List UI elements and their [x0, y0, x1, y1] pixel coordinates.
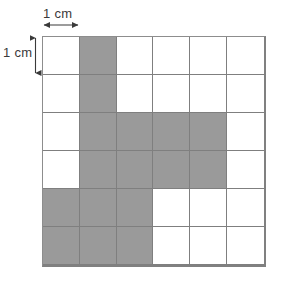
grid-cell-r2-c6	[227, 75, 264, 113]
vertical-dimension-label: 1 cm	[3, 45, 32, 60]
grid-cell-r5-c1	[43, 189, 80, 227]
grid-cell-r1-c2	[80, 37, 117, 75]
grid-cell-r5-c3	[117, 189, 154, 227]
grid-cell-r3-c4	[153, 113, 190, 151]
grid-cell-r2-c5	[190, 75, 227, 113]
grid-cell-r4-c6	[227, 151, 264, 189]
grid-cell-r1-c4	[153, 37, 190, 75]
horizontal-dimension-label: 1 cm	[43, 6, 72, 21]
grid-cell-r3-c6	[227, 113, 264, 151]
grid-cell-r1-c3	[117, 37, 154, 75]
grid-cell-r2-c3	[117, 75, 154, 113]
grid-cell-r3-c1	[43, 113, 80, 151]
grid-cell-r3-c2	[80, 113, 117, 151]
grid-cell-r6-c1	[43, 227, 80, 265]
grid-cell-r5-c6	[227, 189, 264, 227]
grid-cell-r4-c4	[153, 151, 190, 189]
grid-cell-r6-c6	[227, 227, 264, 265]
area-grid-figure: 1 cm 1 cm	[0, 0, 284, 286]
grid-cell-r4-c5	[190, 151, 227, 189]
grid-cell-r1-c5	[190, 37, 227, 75]
grid-cell-r4-c1	[43, 151, 80, 189]
grid-cell-r5-c4	[153, 189, 190, 227]
grid-cell-r6-c5	[190, 227, 227, 265]
grid-cell-r6-c3	[117, 227, 154, 265]
grid-cell-r4-c3	[117, 151, 154, 189]
grid-cell-r6-c4	[153, 227, 190, 265]
grid-cell-r2-c1	[43, 75, 80, 113]
grid-cell-r1-c1	[43, 37, 80, 75]
grid-cell-r6-c2	[80, 227, 117, 265]
grid-cell-r2-c4	[153, 75, 190, 113]
grid-cell-r3-c5	[190, 113, 227, 151]
grid-cell-r5-c2	[80, 189, 117, 227]
grid-cell-r5-c5	[190, 189, 227, 227]
grid-cell-r3-c3	[117, 113, 154, 151]
grid-cell-r4-c2	[80, 151, 117, 189]
grid-cell-r1-c6	[227, 37, 264, 75]
unit-square-grid	[42, 36, 266, 267]
grid-cell-r2-c2	[80, 75, 117, 113]
